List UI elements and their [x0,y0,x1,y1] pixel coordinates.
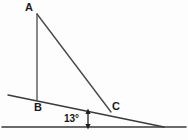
geometry-canvas [0,0,188,140]
geometry-figure: A B C 13° [0,0,188,140]
hypotenuse-side-ac [37,14,111,112]
incline-angle-label: 13° [64,114,79,124]
vertex-label-b: B [34,102,42,113]
vertex-label-c: C [112,101,120,112]
inclined-slope-line [8,95,164,127]
vertex-label-a: A [25,2,33,13]
